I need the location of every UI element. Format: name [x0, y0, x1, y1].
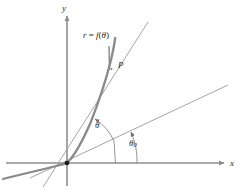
point-p-label: P — [118, 61, 124, 70]
figure-canvas — [0, 0, 241, 194]
angle-arc-theta-extension — [114, 141, 116, 163]
theta-zero-subscript: 0 — [133, 141, 136, 148]
polar-tangent-figure: y x r = f(θ) P θ θ0 — [0, 0, 241, 194]
angle-theta-label: θ — [95, 121, 99, 130]
x-axis-label: x — [230, 159, 234, 168]
y-axis-label: y — [62, 4, 66, 13]
point-p-marker — [111, 68, 113, 70]
angle-theta-zero-label: θ0 — [129, 139, 137, 149]
polar-curve — [3, 38, 115, 179]
curve-equation-label: r = f(θ) — [83, 31, 109, 40]
equation-paren-close: ) — [106, 30, 109, 40]
equation-leader-line — [109, 46, 110, 70]
origin-dot — [65, 161, 70, 166]
